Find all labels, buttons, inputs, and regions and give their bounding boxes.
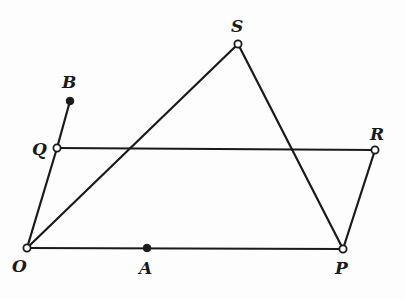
point-s-label: S bbox=[231, 16, 243, 36]
point-r-marker bbox=[371, 146, 378, 153]
point-q-label: Q bbox=[32, 139, 47, 159]
point-s-marker bbox=[234, 40, 241, 47]
geometry-diagram: OAPQRBS bbox=[0, 0, 405, 299]
point-o-marker bbox=[23, 244, 30, 251]
segment-rp bbox=[343, 150, 375, 249]
point-b-marker bbox=[66, 97, 74, 105]
point-p-label: P bbox=[334, 258, 349, 278]
segment-op bbox=[27, 248, 343, 249]
point-o-label: O bbox=[12, 256, 27, 276]
segment-qr bbox=[57, 148, 375, 150]
point-a-label: A bbox=[137, 258, 152, 278]
segments-group bbox=[27, 44, 375, 249]
segment-qb bbox=[57, 101, 70, 148]
point-a-marker bbox=[143, 244, 151, 252]
point-p-marker bbox=[339, 245, 346, 252]
point-q-marker bbox=[53, 144, 60, 151]
points-group bbox=[23, 40, 378, 252]
segment-sp bbox=[238, 44, 343, 249]
point-r-label: R bbox=[369, 124, 384, 144]
point-b-label: B bbox=[61, 72, 76, 92]
